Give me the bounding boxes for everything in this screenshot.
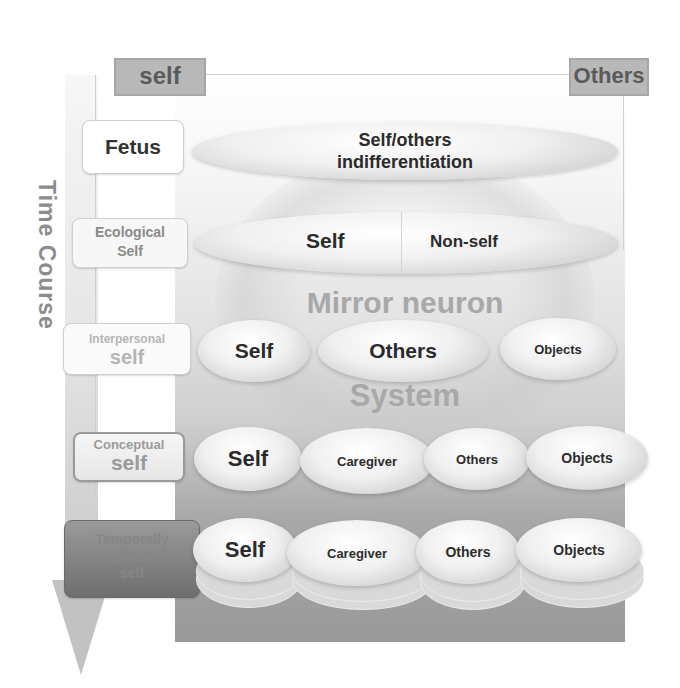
stage-label-line1: Temporally bbox=[65, 531, 199, 548]
stage-label-fetus: Fetus bbox=[82, 120, 184, 174]
ellipse-caregiver: Caregiver bbox=[287, 520, 427, 586]
stage-label-text: Fetus bbox=[83, 121, 183, 173]
ellipse-self: Self bbox=[193, 518, 297, 582]
system-label: System bbox=[320, 378, 490, 414]
ellipse-others: Others bbox=[424, 428, 530, 490]
mirror-neuron-label: Mirror neuron bbox=[280, 286, 530, 320]
ellipse-objects: Objects bbox=[516, 518, 642, 582]
ellipse-self-others-indifferentiation: Self/others indifferentiation bbox=[192, 122, 618, 180]
ellipse-text-self: Self bbox=[306, 229, 345, 253]
others-tag: Others bbox=[569, 58, 649, 96]
stage-label-line2: expanded bbox=[65, 548, 199, 565]
ellipse-objects: Objects bbox=[526, 426, 648, 490]
ellipse-text-line1: Self/others bbox=[358, 129, 451, 151]
stage-label-line2: self bbox=[64, 348, 190, 366]
ellipse-objects: Objects bbox=[500, 318, 616, 380]
time-course-label: Time Course bbox=[30, 180, 60, 370]
ellipse-text-line2: indifferentiation bbox=[337, 151, 473, 173]
right-divider bbox=[623, 90, 624, 250]
ellipse-others: Others bbox=[318, 320, 488, 382]
ellipse-self: Self bbox=[194, 427, 302, 491]
self-tag: self bbox=[114, 58, 206, 96]
ellipse-divider bbox=[401, 212, 402, 274]
stage-label-ecological: Ecological Self bbox=[72, 218, 188, 268]
stage-label-line1: Ecological bbox=[73, 223, 187, 242]
ellipse-self-nonself: Self Non-self bbox=[194, 212, 618, 274]
ellipse-others: Others bbox=[416, 520, 520, 584]
ellipse-text-nonself: Non-self bbox=[430, 232, 498, 252]
ellipse-caregiver: Caregiver bbox=[300, 428, 434, 494]
stage-label-interpersonal: Interpersonal self bbox=[63, 323, 191, 375]
stage-label-conceptual: Conceptual self bbox=[73, 432, 185, 482]
stage-label-line2: self bbox=[75, 454, 183, 472]
stage-label-temporally-expanded: Temporally expanded self bbox=[64, 520, 200, 598]
stage-label-line2: Self bbox=[73, 242, 187, 261]
ellipse-self: Self bbox=[198, 320, 310, 382]
stage-label-line3: self bbox=[65, 565, 199, 582]
